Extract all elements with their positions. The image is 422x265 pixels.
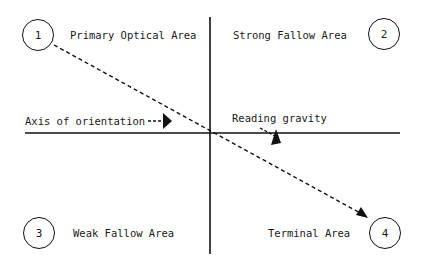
quadrant-3-number: 3 [36, 227, 43, 240]
quadrant-2-label: Strong Fallow Area [233, 29, 347, 41]
quadrant-4-badge: 4 [369, 217, 401, 249]
reading-path-dashed-line [54, 45, 362, 214]
diagram-lines [0, 0, 422, 265]
quadrant-3-label: Weak Fallow Area [73, 227, 174, 239]
reading-path-arrowhead-icon [356, 207, 368, 218]
quadrant-2-number: 2 [381, 28, 388, 41]
quadrant-1-badge: 1 [22, 19, 54, 51]
gutenberg-diagram: 1 Primary Optical Area 2 Strong Fallow A… [0, 0, 422, 265]
reading-gravity-arrowhead-icon [271, 129, 281, 145]
axis-orientation-arrowhead-icon [163, 113, 172, 129]
quadrant-4-number: 4 [382, 227, 389, 240]
quadrant-1-label: Primary Optical Area [70, 29, 196, 41]
quadrant-3-badge: 3 [23, 217, 55, 249]
quadrant-4-label: Terminal Area [268, 227, 350, 239]
reading-gravity-dashed-line [260, 128, 275, 136]
quadrant-2-badge: 2 [368, 18, 400, 50]
axis-of-orientation-label: Axis of orientation [25, 115, 145, 127]
quadrant-1-number: 1 [35, 29, 42, 42]
reading-gravity-label: Reading gravity [232, 112, 327, 124]
